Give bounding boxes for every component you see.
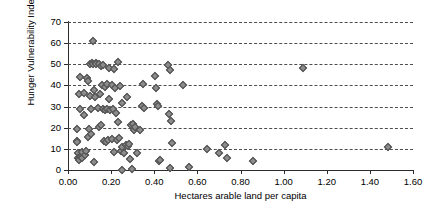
data-point (73, 125, 81, 133)
y-axis-tick-label: 30 (37, 102, 61, 112)
x-axis-tick (370, 170, 371, 174)
x-axis-tick-label: 0.60 (177, 176, 217, 187)
gridline-y (68, 22, 413, 23)
y-axis-tick (64, 107, 68, 108)
y-axis-tick (64, 128, 68, 129)
data-point (118, 166, 126, 174)
y-axis-tick-label: 70 (37, 17, 61, 27)
y-axis-tick (64, 85, 68, 86)
data-point (114, 118, 122, 126)
scatter-chart: Hunger Vulnerability Index Hectares arab… (0, 0, 440, 210)
x-axis-tick-label: 0.80 (221, 176, 261, 187)
data-point (128, 165, 136, 173)
data-point (139, 79, 147, 87)
data-point (178, 81, 186, 89)
y-axis-tick-label: 0 (37, 165, 61, 175)
y-axis-tick (64, 43, 68, 44)
x-axis-tick (154, 170, 155, 174)
y-axis-tick (64, 149, 68, 150)
data-point (168, 139, 176, 147)
gridline-y (68, 128, 413, 129)
x-axis-tick-label: 1.20 (307, 176, 347, 187)
y-axis-tick-label: 40 (37, 80, 61, 90)
gridline-y (68, 107, 413, 108)
x-axis-tick (111, 170, 112, 174)
y-axis-tick-label: 60 (37, 38, 61, 48)
data-point (105, 94, 113, 102)
y-axis-tick-label: 50 (37, 59, 61, 69)
data-point (383, 143, 391, 151)
data-point (126, 155, 134, 163)
x-axis-tick (68, 170, 69, 174)
x-axis-tick (197, 170, 198, 174)
y-axis-tick (64, 64, 68, 65)
x-axis-tick-label: 0.00 (48, 176, 88, 187)
data-point (133, 149, 141, 157)
gridline-y (68, 43, 413, 44)
x-axis-tick (327, 170, 328, 174)
x-axis-tick (413, 170, 414, 174)
data-point (166, 164, 174, 172)
x-axis-tick (241, 170, 242, 174)
data-point (89, 37, 97, 45)
plot-area: 0102030405060700.000.200.400.600.801.001… (68, 22, 413, 170)
x-axis-title: Hectares arable land per capita (68, 190, 413, 201)
data-point (79, 111, 87, 119)
data-point (223, 153, 231, 161)
x-axis-tick-label: 1.40 (350, 176, 390, 187)
y-axis-tick (64, 22, 68, 23)
data-point (140, 104, 148, 112)
x-axis-tick-label: 1.00 (264, 176, 304, 187)
x-axis-tick-label: 0.40 (134, 176, 174, 187)
x-axis-tick-label: 1.60 (393, 176, 433, 187)
y-axis-tick-label: 20 (37, 123, 61, 133)
x-axis-tick-label: 0.20 (91, 176, 131, 187)
data-point (112, 109, 120, 117)
data-point (249, 157, 257, 165)
data-point (90, 158, 98, 166)
y-axis-tick-label: 10 (37, 144, 61, 154)
x-axis-tick (284, 170, 285, 174)
data-point (203, 145, 211, 153)
data-point (150, 72, 158, 80)
